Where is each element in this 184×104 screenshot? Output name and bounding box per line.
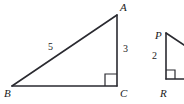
vertex-label-r: R [160, 88, 167, 99]
vertex-label-p: P [155, 30, 162, 41]
vertex-label-b: B [4, 88, 11, 99]
vertex-label-a: A [120, 2, 127, 13]
triangle-pqr-shape [166, 33, 184, 79]
segment-ba-hypotenuse [12, 15, 117, 86]
right-angle-marker-r [166, 70, 175, 79]
side-length-label-leg-pr: 2 [152, 51, 157, 61]
vertex-label-c: C [120, 88, 127, 99]
triangle-abc-shape [12, 15, 117, 86]
side-length-label-hypotenuse-abc: 5 [48, 42, 53, 52]
side-length-label-leg-ac: 3 [123, 44, 128, 54]
right-angle-marker-c [105, 74, 117, 86]
geometry-figure: A B C P R 5 3 2 [0, 0, 184, 104]
segment-pq-hypotenuse [166, 33, 184, 53]
